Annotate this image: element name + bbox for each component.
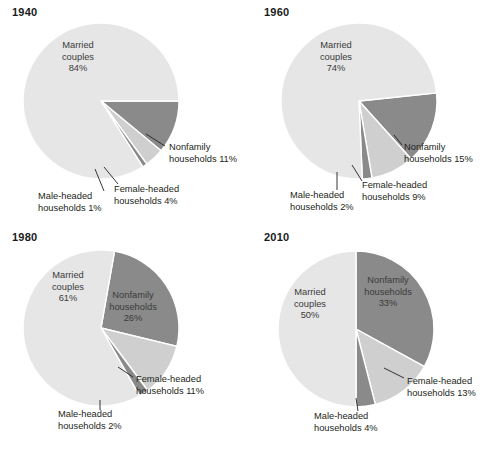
slice-label-nonfamily-households: Nonfamilyhouseholds 15% bbox=[404, 142, 473, 164]
slice-label-female-headed-households: Female-headedhouseholds 11% bbox=[136, 374, 204, 396]
chart-panel-1960: Marriedcouples74%Nonfamilyhouseholds 15%… bbox=[252, 0, 503, 224]
slice-label-nonfamily-households: Nonfamilyhouseholds 11% bbox=[169, 142, 237, 164]
chart-title-2010: 2010 bbox=[264, 231, 289, 243]
slice-label-female-headed-households: Female-headedhouseholds 4% bbox=[114, 184, 179, 206]
chart-panel-1940: Marriedcouples84%Nonfamilyhouseholds 11%… bbox=[0, 0, 251, 224]
chart-title-1980: 1980 bbox=[12, 231, 37, 243]
chart-title-1960: 1960 bbox=[264, 6, 289, 18]
slice-label-male-headed-households: Male-headedhouseholds 2% bbox=[290, 190, 354, 212]
chart-title-1940: 1940 bbox=[12, 6, 37, 18]
slice-label-female-headed-households: Female-headedhouseholds 9% bbox=[362, 180, 427, 202]
pie-chart-figure: Marriedcouples84%Nonfamilyhouseholds 11%… bbox=[0, 0, 503, 449]
pie-chart-2010: Marriedcouples50%Nonfamilyhouseholds33%F… bbox=[252, 225, 503, 449]
pie-chart-1960: Marriedcouples74%Nonfamilyhouseholds 15%… bbox=[252, 0, 503, 224]
pie-slice-married-couples bbox=[278, 251, 356, 407]
slice-label-female-headed-households: Female-headedhouseholds 13% bbox=[407, 376, 476, 398]
chart-panel-2010: Marriedcouples50%Nonfamilyhouseholds33%F… bbox=[252, 225, 503, 449]
pie-chart-1940: Marriedcouples84%Nonfamilyhouseholds 11%… bbox=[0, 0, 251, 224]
slice-label-male-headed-households: Male-headedhouseholds 2% bbox=[58, 409, 122, 431]
chart-panel-1980: Marriedcouples61%Nonfamilyhouseholds26%F… bbox=[0, 225, 251, 449]
slice-label-male-headed-households: Male-headedhouseholds 1% bbox=[38, 191, 102, 213]
slice-label-male-headed-households: Male-headedhouseholds 4% bbox=[314, 411, 378, 433]
pie-chart-1980: Marriedcouples61%Nonfamilyhouseholds26%F… bbox=[0, 225, 251, 449]
